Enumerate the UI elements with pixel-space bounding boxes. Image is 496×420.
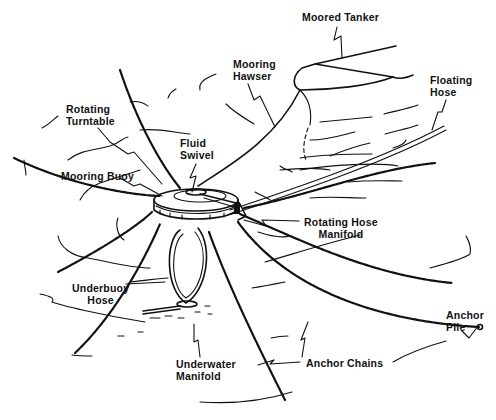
label-text: Hose — [72, 294, 129, 306]
label-text: Moored Tanker — [302, 11, 379, 23]
label-text: Mooring — [233, 58, 276, 70]
label-text: Mooring Buoy — [61, 170, 134, 182]
label-mooring-hawser: Mooring Hawser — [233, 58, 276, 82]
label-text: Anchor — [446, 309, 484, 321]
label-anchor-pile: Anchor Pile — [446, 309, 484, 333]
label-text: Underbuoy — [72, 282, 129, 294]
label-rotating-turntable: Rotating Turntable — [66, 103, 115, 127]
label-rotating-hose-manifold: Rotating Hose Manifold — [304, 216, 378, 240]
label-text: Fluid — [180, 137, 214, 149]
label-anchor-chains: Anchor Chains — [306, 357, 383, 369]
underwater-manifold — [143, 301, 212, 318]
label-text: Rotating Hose — [304, 216, 378, 228]
label-text: Manifold — [304, 228, 378, 240]
label-text: Hose — [430, 86, 472, 98]
label-text: Floating — [430, 74, 472, 86]
label-text: Anchor Chains — [306, 357, 383, 369]
tanker-bow — [294, 46, 413, 160]
label-text: Turntable — [66, 115, 115, 127]
label-fluid-swivel: Fluid Swivel — [180, 137, 214, 161]
label-underwater-manifold: Underwater Manifold — [176, 358, 236, 382]
label-text: Pile — [446, 321, 484, 333]
label-text: Underwater — [176, 358, 236, 370]
label-text: Rotating — [66, 103, 115, 115]
mooring-diagram: Moored Tanker Mooring Hawser Floating Ho… — [0, 0, 496, 420]
label-moored-tanker: Moored Tanker — [302, 11, 379, 23]
underbuoy-hose — [169, 228, 206, 303]
label-text: Hawser — [233, 70, 276, 82]
label-floating-hose: Floating Hose — [430, 74, 472, 98]
label-text: Swivel — [180, 149, 214, 161]
label-underbuoy-hose: Underbuoy Hose — [72, 282, 129, 306]
label-mooring-buoy: Mooring Buoy — [61, 170, 134, 182]
label-text: Manifold — [176, 370, 236, 382]
